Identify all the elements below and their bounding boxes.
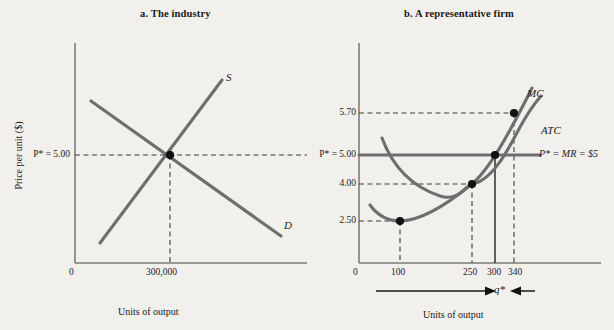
demand-curve-label: D bbox=[284, 219, 292, 231]
panel-b-xtick-100: 100 bbox=[391, 267, 405, 277]
qstar-arrow-left-head bbox=[510, 287, 521, 296]
panel-b-xtick-250: 250 bbox=[463, 267, 477, 277]
atc-point-340 bbox=[510, 109, 518, 117]
panel-a-title: a. The industry bbox=[140, 8, 211, 19]
panel-b-title: b. A representative firm bbox=[404, 8, 514, 19]
mc-curve-label: MC bbox=[527, 87, 544, 99]
equilibrium-point bbox=[166, 151, 175, 160]
figure-canvas bbox=[0, 0, 614, 330]
qstar-label: q* bbox=[494, 283, 505, 295]
atc-curve-label: ATC bbox=[541, 124, 561, 136]
atc-min-point-250 bbox=[468, 180, 476, 188]
panel-a-origin-label: 0 bbox=[69, 267, 74, 277]
supply-curve-label: S bbox=[226, 71, 232, 83]
panel-a-group bbox=[75, 43, 307, 263]
mr-price-line-label: P* = MR = $5 bbox=[539, 148, 598, 159]
panel-b-ytick-570: 5.70 bbox=[294, 107, 356, 117]
qstar-arrow-group bbox=[376, 287, 535, 296]
panel-b-ytick-500: P* = 5.00 bbox=[286, 149, 356, 159]
panel-b-ytick-250: 2.50 bbox=[294, 215, 356, 225]
panel-a-quantity-tick: 300,000 bbox=[146, 267, 177, 277]
figure-root: a. The industry Price per unit ($) Units… bbox=[0, 0, 614, 330]
profit-max-point-300 bbox=[491, 151, 499, 159]
panel-b-origin-label: 0 bbox=[353, 267, 358, 277]
panel-b-x-axis-label: Units of output bbox=[423, 309, 484, 320]
panel-b-ytick-400: 4.00 bbox=[294, 178, 356, 188]
panel-a-x-axis-label: Units of output bbox=[118, 306, 179, 317]
panel-b-xtick-300: 300 bbox=[487, 267, 501, 277]
panel-b-xtick-340: 340 bbox=[508, 267, 522, 277]
panel-b-group bbox=[359, 43, 601, 296]
mc-min-point-100 bbox=[396, 217, 404, 225]
panel-a-price-tick: P* = 5.00 bbox=[2, 149, 70, 159]
supply-curve bbox=[100, 80, 222, 243]
